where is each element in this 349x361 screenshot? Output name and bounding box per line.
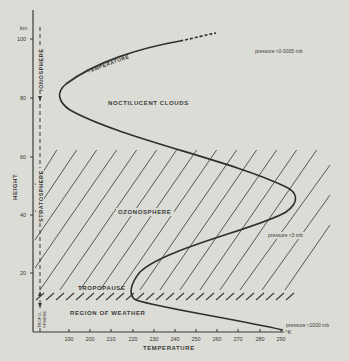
x-tick-210: 210 bbox=[106, 336, 115, 342]
tropopause-hatch-band bbox=[36, 293, 294, 300]
y-tick-20: 20 bbox=[20, 270, 26, 276]
y-tick-60: 60 bbox=[20, 154, 26, 160]
stratosphere-label: STRATOSPHERE bbox=[38, 170, 44, 222]
x-tick-280: 280 bbox=[255, 336, 264, 342]
ionosphere-label: IONOSPHERE bbox=[38, 48, 44, 91]
x-tick-260: 260 bbox=[212, 336, 221, 342]
x-tick-250: 250 bbox=[191, 336, 200, 342]
x-tick-230: 230 bbox=[149, 336, 158, 342]
x-axis-label: TEMPERATURE bbox=[143, 345, 195, 351]
x-axis-unit: °K bbox=[285, 329, 291, 335]
temperature-curve-label: TEMPERATURE bbox=[86, 53, 130, 74]
y-tick-100: 100 bbox=[17, 36, 26, 42]
ozonosphere-label: OZONOSPHERE bbox=[118, 209, 171, 215]
temperature-curve-extrapolated bbox=[180, 33, 216, 41]
x-tick-190: 190 bbox=[64, 336, 73, 342]
x-tick-290: 290 bbox=[276, 336, 285, 342]
troposphere-label-2: SPHERE bbox=[42, 311, 47, 328]
pressure-note-top: pressure ≈0·0005 mb bbox=[255, 48, 303, 54]
pressure-note-mid: pressure ≈3 mb bbox=[268, 232, 303, 238]
y-axis-unit: km bbox=[20, 25, 28, 31]
y-axis-label: HEIGHT bbox=[12, 174, 18, 200]
noctilucent-clouds-label: NOCTILUCENT CLOUDS bbox=[108, 100, 189, 106]
atmosphere-temperature-diagram: km 100 80 60 40 20 HEIGHT 190 200 210 22… bbox=[0, 0, 349, 361]
x-tick-220: 220 bbox=[128, 336, 137, 342]
y-tick-40: 40 bbox=[20, 212, 26, 218]
x-tick-200: 200 bbox=[85, 336, 94, 342]
tropopause-label: TROPOPAUSE bbox=[78, 285, 126, 291]
pressure-note-bottom: pressure ≈1000 mb bbox=[286, 322, 329, 328]
x-tick-270: 270 bbox=[233, 336, 242, 342]
x-tick-240: 240 bbox=[170, 336, 179, 342]
ozonosphere-hatching bbox=[35, 148, 330, 290]
y-tick-80: 80 bbox=[20, 95, 26, 101]
region-of-weather-label: REGION OF WEATHER bbox=[70, 310, 145, 316]
